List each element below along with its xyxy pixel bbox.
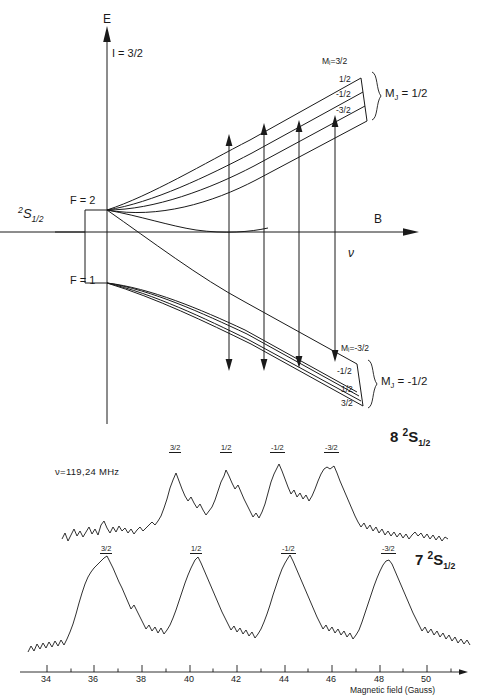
axis-tick-label-38: 38 — [136, 675, 146, 684]
frequency-axis-label: ν — [348, 247, 354, 259]
axis-arrowhead — [459, 669, 468, 675]
lower-trace-state-label: 7 2S1/2 — [415, 551, 455, 571]
mj-value-lower: = -1/2 — [398, 375, 428, 387]
lower-peak-0-num: 3/2 — [100, 545, 112, 554]
minor-ticks — [71, 669, 451, 673]
magnetic-field-axis — [0, 660, 484, 686]
axis-tick-label-44: 44 — [279, 675, 289, 684]
breit-rabi-diagram — [0, 0, 484, 440]
mj-value-upper: = 1/2 — [402, 87, 428, 99]
lower-trace-line — [28, 555, 470, 652]
term-symbol: 2S1/2 — [18, 206, 44, 224]
upper-peak-label-0: 3/2 — [169, 440, 181, 453]
term-letter: S — [23, 206, 32, 221]
upper-state-label-mi-neg1-2: -1/2 — [336, 90, 351, 99]
lower-state-label-mi-1-2: 1/2 — [341, 385, 353, 394]
upper-curve-mi-1-2 — [107, 92, 363, 210]
axis-tick-label-50: 50 — [421, 675, 431, 684]
energy-axis-label: E — [103, 13, 111, 25]
lower-branch-group-label: MJ = -1/2 — [381, 376, 427, 390]
mj-letter-lower: M — [381, 375, 391, 387]
axis-tick-label-48: 48 — [374, 675, 384, 684]
nuclear-spin-label: I = 3/2 — [112, 48, 143, 59]
upper-peak-2-num: -1/2 — [270, 444, 285, 453]
term-subscript: 1/2 — [32, 214, 44, 224]
lower-state-label-mi-neg3-2: Mᵢ=-3/2 — [341, 344, 369, 353]
axis-tick-label-36: 36 — [88, 675, 98, 684]
upper-curve-mi-neg3-2 — [107, 121, 367, 213]
axis-tick-label-46: 46 — [326, 675, 336, 684]
lower-state-label-mi-neg1-2: -1/2 — [337, 367, 352, 376]
figure-root: E I = 3/2 B ν 2S1/2 F = 2 F = 1 Mᵢ=3/2 1… — [0, 0, 484, 699]
lower-state-term: S — [433, 551, 443, 568]
lower-curve-mi-neg3-2 — [107, 283, 357, 392]
upper-peak-0-num: 3/2 — [169, 444, 181, 453]
lower-peak-label-2: -1/2 — [281, 541, 296, 554]
upper-peak-label-1: 1/2 — [220, 440, 232, 453]
upper-state-label-mi-1-2: 1/2 — [339, 75, 351, 84]
upper-trace-line — [62, 464, 448, 541]
mj-sub-upper: J — [395, 93, 399, 102]
upper-peak-label-2: -1/2 — [270, 440, 285, 453]
hyperfine-label-f2: F = 2 — [70, 195, 95, 206]
axis-tick-label-42: 42 — [231, 675, 241, 684]
energy-axis-arrowhead — [103, 26, 111, 42]
lower-peak-label-1: 1/2 — [190, 541, 202, 554]
axis-tick-label-40: 40 — [184, 675, 194, 684]
upper-state-label-mi-neg3-2: -3/2 — [336, 106, 351, 115]
upper-branch-group-label: MJ = 1/2 — [385, 88, 428, 102]
lower-brace — [368, 360, 377, 408]
upper-trace-frequency-annotation: ν=119,24 MHz — [55, 467, 119, 477]
upper-state-term: S — [408, 428, 418, 445]
lower-curve-mi-3-2 — [107, 283, 363, 406]
lower-peak-2-num: -1/2 — [281, 545, 296, 554]
mj-sub-lower: J — [391, 381, 395, 390]
upper-state-n: 8 — [390, 428, 398, 445]
field-axis-arrowhead — [403, 228, 419, 236]
mj-letter-upper: M — [385, 87, 395, 99]
lower-peak-1-num: 1/2 — [190, 545, 202, 554]
field-axis-label: B — [374, 213, 382, 225]
upper-group-endcap — [361, 78, 367, 121]
upper-state-label-mi-3-2: Mᵢ=3/2 — [322, 57, 347, 66]
lower-state-label-mi-3-2: 3/2 — [341, 399, 353, 408]
lower-state-sub: 1/2 — [443, 561, 455, 571]
lower-peak-label-3: -3/2 — [381, 541, 396, 554]
major-ticks — [47, 665, 427, 672]
axis-title: Magnetic field (Gauss) — [350, 686, 435, 695]
upper-state-sub: 1/2 — [418, 438, 430, 448]
transition-arrows-up — [226, 115, 339, 232]
upper-trace-state-label: 8 2S1/2 — [390, 428, 430, 448]
lower-state-n: 7 — [415, 551, 423, 568]
upper-brace — [372, 72, 381, 120]
upper-peak-1-num: 1/2 — [220, 444, 232, 453]
hyperfine-label-f1: F = 1 — [70, 275, 95, 286]
upper-peak-3-num: -3/2 — [324, 444, 339, 453]
spectrum-lower-trace — [0, 548, 484, 658]
lower-curve-from-f2-a — [107, 210, 357, 364]
axis-tick-label-34: 34 — [41, 675, 51, 684]
upper-curve-tail — [107, 210, 268, 232]
lower-peak-label-0: 3/2 — [100, 541, 112, 554]
upper-peak-label-3: -3/2 — [324, 440, 339, 453]
lower-peak-3-num: -3/2 — [381, 545, 396, 554]
